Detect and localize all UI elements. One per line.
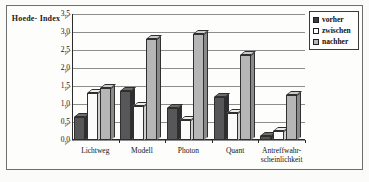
legend-swatch-zwischen (313, 28, 319, 34)
bar-vorher-0 (74, 117, 85, 140)
bar-face (167, 108, 178, 140)
bar-vorher-4 (260, 136, 271, 140)
bar-nachher-0 (100, 88, 111, 140)
plot-area (72, 14, 305, 140)
gridline (72, 68, 305, 69)
bar-nachher-2 (193, 34, 204, 140)
chart-legend: vorher zwischen nachher (309, 11, 359, 50)
bar-vorher-1 (120, 91, 131, 140)
bar-zwischen-1 (133, 106, 144, 140)
legend-label: vorher (322, 15, 344, 24)
bar-zwischen-4 (273, 131, 284, 140)
bar-face (286, 95, 297, 140)
bar-side (111, 85, 115, 140)
gridline (72, 14, 305, 15)
legend-item[interactable]: zwischen (313, 25, 356, 36)
bar-face (214, 97, 225, 140)
legend-swatch-nachher (313, 39, 319, 45)
bar-vorher-2 (167, 108, 178, 140)
bar-face (74, 117, 85, 140)
x-tick (119, 140, 120, 143)
legend-label: nachher (322, 37, 348, 46)
x-tick (212, 140, 213, 143)
bar-side (297, 92, 301, 140)
x-tick (165, 140, 166, 143)
bar-face (133, 106, 144, 140)
bar-zwischen-3 (227, 113, 238, 140)
legend-label: zwischen (322, 26, 351, 35)
bar-face (273, 131, 284, 140)
bar-vorher-3 (214, 97, 225, 140)
gridline (72, 32, 305, 33)
x-tick (258, 140, 259, 143)
bar-face (180, 120, 191, 140)
bar-face (146, 39, 157, 140)
x-tick (305, 140, 306, 143)
bar-nachher-4 (286, 95, 297, 140)
bar-face (120, 91, 131, 140)
legend-item[interactable]: vorher (313, 14, 356, 25)
chart-figure: Hoede- Index 0,00,51,01,52,02,53,03,5 Li… (0, 0, 369, 182)
bar-face (240, 55, 251, 140)
bar-face (227, 113, 238, 140)
bar-face (260, 136, 271, 140)
bar-face (193, 34, 204, 140)
gridline (72, 50, 305, 51)
bar-side (204, 31, 208, 140)
bar-zwischen-2 (180, 120, 191, 140)
bar-nachher-3 (240, 55, 251, 140)
bar-face (100, 88, 111, 140)
x-category-label: Antreffwahr- scheinlichkeit (250, 146, 313, 164)
bar-nachher-1 (146, 39, 157, 140)
legend-swatch-vorher (313, 17, 319, 23)
bar-face (87, 93, 98, 140)
legend-item[interactable]: nachher (313, 36, 356, 47)
bar-zwischen-0 (87, 93, 98, 140)
bar-side (157, 36, 161, 140)
bar-side (251, 52, 255, 140)
